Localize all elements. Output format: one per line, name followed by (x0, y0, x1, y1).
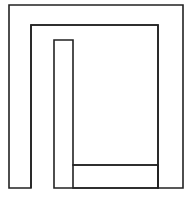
background-rect (0, 0, 194, 199)
figure-canvas (0, 0, 194, 199)
spiral-outline-drawing (0, 0, 194, 199)
